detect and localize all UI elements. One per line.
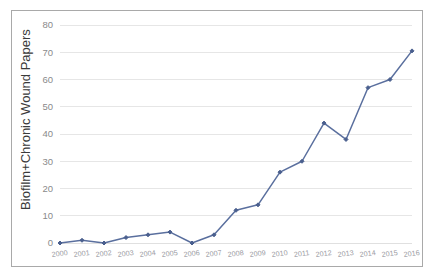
x-tick-label: 2005 [161,248,178,259]
x-tick-label: 2012 [315,248,332,259]
x-tick-labels-group: 2000200120022003200420052006200720082009… [51,248,420,259]
x-tick-label: 2008 [227,248,244,259]
y-tick-label: 0 [48,237,53,248]
data-point-marker [102,241,106,245]
x-tick-label: 2016 [403,248,420,259]
x-tick-label: 2014 [359,248,376,259]
y-tick-label: 30 [42,156,53,167]
line-chart-svg: 01020304050607080 2000200120022003200420… [0,0,436,276]
data-point-marker [58,241,62,245]
y-tick-label: 50 [42,101,53,112]
x-tick-label: 2004 [139,248,156,259]
y-tick-label: 80 [42,19,53,30]
x-tick-label: 2002 [95,248,112,259]
y-tick-label: 70 [42,47,53,58]
x-tick-label: 2001 [73,248,90,259]
data-point-marker [124,236,128,240]
y-tick-label: 60 [42,74,53,85]
data-point-marker [80,238,84,242]
x-tick-label: 2013 [337,248,354,259]
x-tick-label: 2000 [51,248,68,259]
x-tick-label: 2007 [205,248,222,259]
plot-area: 01020304050607080 2000200120022003200420… [0,0,436,276]
x-tick-label: 2010 [271,248,288,259]
x-tick-label: 2003 [117,248,134,259]
x-tick-label: 2009 [249,248,266,259]
chart-figure: Biofilm+Chronic Wound Papers 01020304050… [0,0,436,276]
y-tick-label: 20 [42,183,53,194]
x-tick-label: 2006 [183,248,200,259]
y-tick-label: 40 [42,128,53,139]
y-tick-label: 10 [42,210,53,221]
x-tick-label: 2011 [293,248,310,259]
y-tick-labels-group: 01020304050607080 [42,19,53,248]
x-tick-label: 2015 [381,248,398,259]
data-point-marker [146,233,150,237]
